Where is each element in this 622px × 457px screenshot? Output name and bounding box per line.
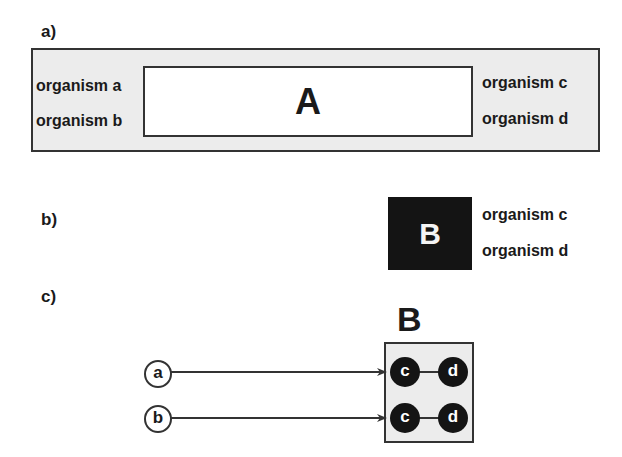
- panel-c-diagram: [0, 0, 622, 457]
- source-a-label: a: [145, 363, 171, 383]
- source-b-label: b: [145, 408, 171, 428]
- node-c-row2-label: c: [390, 407, 420, 427]
- node-d-row2-label: d: [438, 407, 468, 427]
- node-c-row1-label: c: [390, 361, 420, 381]
- node-d-row1-label: d: [438, 361, 468, 381]
